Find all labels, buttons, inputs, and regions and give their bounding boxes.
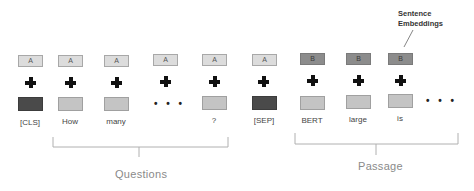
passage-brace xyxy=(295,133,458,144)
passage-label: Passage xyxy=(358,160,403,172)
callout-arrow xyxy=(404,30,413,47)
questions-label: Questions xyxy=(115,168,167,180)
questions-brace xyxy=(53,137,228,147)
